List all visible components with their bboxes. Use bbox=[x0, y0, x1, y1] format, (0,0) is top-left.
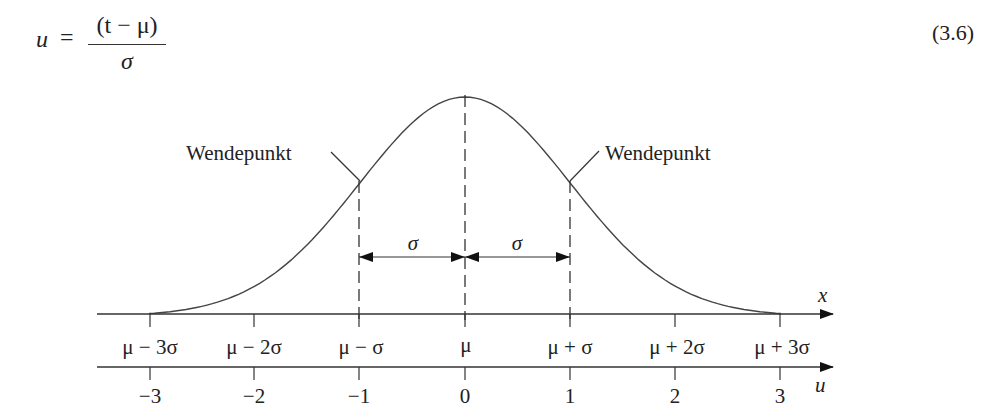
u-tick-label: 3 bbox=[775, 384, 786, 408]
x-tick-label: μ bbox=[460, 333, 471, 357]
leader-right bbox=[570, 151, 599, 181]
x-axis-tick-labels: μ − 3σ μ − 2σ μ − σ μ μ + σ μ + 2σ μ + 3… bbox=[122, 333, 809, 359]
x-axis-ticks bbox=[150, 314, 780, 327]
u-axis-label: u bbox=[815, 373, 826, 397]
sigma-label-right: σ bbox=[512, 231, 524, 255]
u-tick-label: −1 bbox=[348, 384, 370, 408]
x-tick-label: μ − 2σ bbox=[226, 335, 281, 359]
x-tick-label: μ + 3σ bbox=[754, 335, 809, 359]
leader-left bbox=[331, 152, 360, 181]
x-axis-label: x bbox=[817, 283, 828, 307]
inflection-label-right: Wendepunkt bbox=[605, 141, 711, 165]
u-tick-label: −3 bbox=[139, 384, 161, 408]
sigma-label-left: σ bbox=[408, 231, 420, 255]
x-tick-label: μ − σ bbox=[339, 335, 384, 359]
u-axis-ticks bbox=[150, 367, 780, 380]
inflection-label-left: Wendepunkt bbox=[186, 141, 292, 165]
u-tick-label: 1 bbox=[565, 384, 576, 408]
u-tick-label: 0 bbox=[460, 384, 471, 408]
sigma-guides bbox=[359, 95, 570, 320]
x-tick-label: μ + σ bbox=[548, 335, 593, 359]
x-tick-label: μ + 2σ bbox=[649, 335, 704, 359]
u-axis-tick-labels: −3 −2 −1 0 1 2 3 bbox=[139, 384, 785, 408]
x-tick-label: μ − 3σ bbox=[122, 335, 177, 359]
normal-distribution-figure: σ σ Wendepunkt Wendepunkt x μ − 3σ μ − 2… bbox=[0, 0, 992, 410]
u-tick-label: 2 bbox=[670, 384, 681, 408]
u-tick-label: −2 bbox=[243, 384, 265, 408]
